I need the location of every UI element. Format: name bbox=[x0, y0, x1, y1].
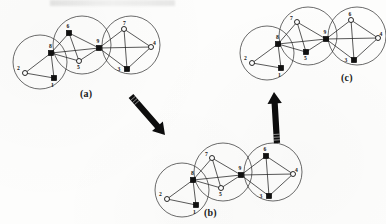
node-label-a-1: 1 bbox=[51, 82, 54, 88]
node-a-1 bbox=[51, 75, 56, 80]
node-label-b-6: 6 bbox=[264, 146, 267, 152]
edge-a-9-3 bbox=[99, 48, 127, 69]
node-label-a-3: 3 bbox=[118, 66, 121, 72]
node-label-b-7: 7 bbox=[205, 151, 208, 157]
node-label-a-4: 4 bbox=[153, 40, 156, 46]
node-label-c-1: 1 bbox=[278, 72, 281, 78]
node-label-a-8: 8 bbox=[49, 43, 52, 49]
node-label-a-7: 7 bbox=[123, 20, 126, 26]
node-c-3 bbox=[351, 57, 356, 62]
node-label-a-6: 6 bbox=[67, 23, 70, 29]
cluster-circle-b-2 bbox=[194, 143, 252, 201]
node-label-a-9: 9 bbox=[97, 38, 100, 44]
panel-c: 128759643 bbox=[240, 7, 386, 80]
edge-a-2-8 bbox=[25, 53, 51, 73]
node-b-3 bbox=[266, 193, 271, 198]
arrow-b-to-c bbox=[267, 92, 281, 143]
node-label-c-4: 4 bbox=[380, 31, 383, 37]
edge-c-9-6 bbox=[326, 20, 351, 39]
node-label-c-8: 8 bbox=[276, 34, 279, 40]
node-b-1 bbox=[193, 202, 198, 207]
node-c-9 bbox=[323, 36, 328, 41]
edge-a-7-4 bbox=[124, 29, 151, 47]
panels-layer: 128659743128759643128759643 bbox=[13, 7, 386, 217]
edge-c-6-3 bbox=[351, 20, 354, 60]
edge-c-2-8 bbox=[252, 44, 278, 63]
node-c-6 bbox=[349, 18, 354, 23]
node-label-c-7: 7 bbox=[290, 15, 293, 21]
edge-a-3-4 bbox=[127, 47, 151, 69]
cluster-circle-c-1 bbox=[240, 26, 294, 80]
node-label-c-2: 2 bbox=[244, 55, 247, 61]
node-label-c-6: 6 bbox=[349, 11, 352, 17]
node-a-9 bbox=[96, 45, 101, 50]
node-a-3 bbox=[124, 66, 129, 71]
node-a-7 bbox=[122, 27, 127, 32]
edge-b-2-8 bbox=[167, 180, 193, 199]
node-b-7 bbox=[210, 156, 215, 161]
panel-b: 128759643 bbox=[155, 143, 302, 217]
edge-b-9-3 bbox=[241, 175, 269, 196]
node-c-2 bbox=[250, 61, 255, 66]
arrows-layer bbox=[129, 92, 282, 143]
edge-b-6-3 bbox=[266, 156, 269, 196]
clustering-figure: 128659743128759643128759643 bbox=[0, 0, 386, 224]
node-label-c-9: 9 bbox=[324, 29, 327, 35]
edge-b-8-1 bbox=[193, 180, 196, 205]
edge-b-2-1 bbox=[167, 199, 196, 205]
node-c-7 bbox=[295, 20, 300, 25]
node-label-c-3: 3 bbox=[345, 57, 348, 63]
edge-c-9-3 bbox=[326, 39, 354, 60]
node-label-c-5: 5 bbox=[304, 55, 307, 61]
node-c-8 bbox=[275, 41, 280, 46]
node-b-6 bbox=[263, 153, 268, 158]
node-a-8 bbox=[48, 50, 53, 55]
edge-a-8-6 bbox=[51, 33, 69, 53]
node-b-8 bbox=[190, 177, 195, 182]
edge-c-8-1 bbox=[278, 44, 281, 68]
edge-c-3-4 bbox=[354, 38, 378, 60]
edge-a-2-1 bbox=[25, 73, 54, 78]
panel-label-c: (c) bbox=[341, 72, 353, 83]
panel-label-a: (a) bbox=[80, 88, 92, 99]
node-a-2 bbox=[23, 71, 28, 76]
edge-a-7-3 bbox=[124, 29, 127, 69]
edge-c-6-4 bbox=[351, 20, 378, 38]
node-label-b-1: 1 bbox=[193, 209, 196, 215]
edge-b-6-4 bbox=[266, 156, 293, 174]
panel-a: 128659743 bbox=[13, 16, 160, 89]
node-label-a-2: 2 bbox=[17, 65, 20, 71]
panel-label-b: (b) bbox=[204, 207, 217, 218]
edge-a-8-1 bbox=[51, 53, 54, 78]
edge-c-8-5 bbox=[278, 44, 306, 52]
node-label-b-8: 8 bbox=[191, 170, 194, 176]
edge-b-3-4 bbox=[269, 174, 293, 196]
node-c-1 bbox=[278, 65, 283, 70]
edge-c-2-1 bbox=[252, 63, 281, 68]
node-label-b-4: 4 bbox=[295, 167, 298, 173]
edge-b-8-5 bbox=[193, 180, 221, 188]
node-label-b-9: 9 bbox=[239, 165, 242, 171]
node-a-6 bbox=[66, 30, 71, 35]
node-label-a-5: 5 bbox=[77, 64, 80, 70]
node-label-b-5: 5 bbox=[219, 191, 222, 197]
node-b-9 bbox=[238, 172, 243, 177]
node-b-2 bbox=[165, 197, 170, 202]
arrow-a-to-b bbox=[129, 94, 165, 135]
node-label-b-2: 2 bbox=[159, 191, 162, 197]
node-label-b-3: 3 bbox=[260, 193, 263, 199]
